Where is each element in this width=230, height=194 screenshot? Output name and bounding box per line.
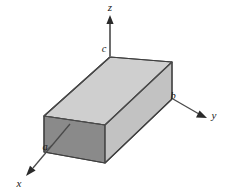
dimension-label-b: b [170,90,175,101]
y-axis-arrowhead [196,111,207,118]
z-axis-arrowhead [106,15,113,24]
x-axis-label: x [16,177,22,189]
box-axes-figure: z y x a b c [0,0,230,194]
y-axis-line [173,99,199,114]
y-axis-label: y [211,109,217,121]
figure-container: z y x a b c [0,0,230,194]
dimension-label-a: a [42,141,47,152]
z-axis-label: z [107,1,113,13]
dimension-label-c: c [102,43,107,54]
box-body [44,57,172,163]
